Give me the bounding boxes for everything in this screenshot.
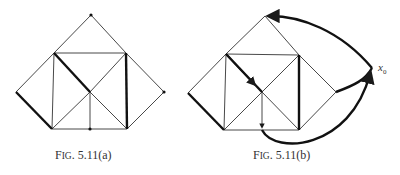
graph-b <box>188 16 372 143</box>
vertex-label-sub: 0 <box>383 68 387 76</box>
caption-a-smallcaps: IG <box>62 151 72 161</box>
caption-fig-b: FIG. 5.11(b) <box>253 148 310 163</box>
graph-a <box>16 13 166 130</box>
caption-a-prefix: F <box>55 148 62 162</box>
vertex-label-x0: x0 <box>378 61 386 76</box>
caption-b-smallcaps: IG <box>260 151 270 161</box>
caption-a-suffix: . 5.11(a) <box>72 148 112 162</box>
caption-b-prefix: F <box>253 148 260 162</box>
caption-fig-a: FIG. 5.11(a) <box>55 148 112 163</box>
caption-b-suffix: . 5.11(b) <box>270 148 311 162</box>
